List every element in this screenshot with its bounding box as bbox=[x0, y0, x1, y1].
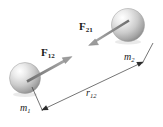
label-force-F21: F21 bbox=[79, 17, 93, 34]
sphere-mass-1 bbox=[10, 63, 41, 97]
extension-line-left bbox=[32, 87, 43, 111]
label-mass-1-subscript: 1 bbox=[27, 107, 30, 114]
sphere-mass-2 bbox=[112, 9, 145, 45]
extension-line-right bbox=[142, 43, 153, 64]
label-distance-r12: r12 bbox=[86, 83, 96, 100]
label-force-F12: F12 bbox=[41, 43, 55, 60]
label-force-F12-base: F bbox=[41, 46, 48, 58]
label-mass-2-subscript: 2 bbox=[131, 56, 134, 63]
label-force-F12-subscript: 12 bbox=[48, 52, 55, 60]
label-distance-r12-subscript: 12 bbox=[90, 92, 97, 99]
label-mass-2: m2 bbox=[124, 47, 134, 64]
label-mass-1: m1 bbox=[20, 98, 30, 115]
physics-diagram: F12 F21 m1 m2 r12 bbox=[0, 0, 163, 127]
label-force-F21-base: F bbox=[79, 20, 86, 32]
label-force-F21-subscript: 21 bbox=[86, 26, 93, 34]
